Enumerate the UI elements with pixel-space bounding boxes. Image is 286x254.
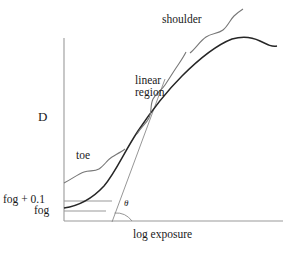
toe-pointer-line <box>64 149 125 183</box>
y-axis-label: D <box>38 110 47 124</box>
fog-level-label: fog <box>34 204 49 216</box>
characteristic-curve <box>64 37 277 208</box>
x-axis-label: log exposure <box>133 228 192 240</box>
toe-annotation-label: toe <box>76 149 90 161</box>
characteristic-curve-figure: D log exposure fog + 0.1 fog toe linear … <box>0 0 286 254</box>
angle-arc <box>115 213 133 221</box>
gamma-tangent-line <box>112 79 165 222</box>
shoulder-annotation-label: shoulder <box>162 13 202 25</box>
theta-angle-label: θ <box>124 199 128 208</box>
linear-region-label-line-1: linear <box>135 74 164 86</box>
linear-region-label-line-2: region <box>135 86 164 98</box>
linear-region-annotation-label: linear region <box>135 74 164 98</box>
